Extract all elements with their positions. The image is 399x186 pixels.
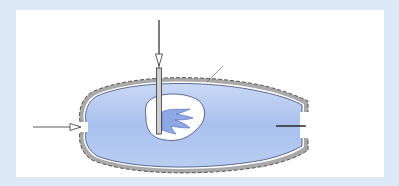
fuel-injector-tube — [157, 68, 162, 134]
outlet-opening — [300, 112, 312, 138]
combustion-chamber-diagram — [0, 0, 399, 186]
fuel-arrow-icon — [156, 54, 163, 66]
